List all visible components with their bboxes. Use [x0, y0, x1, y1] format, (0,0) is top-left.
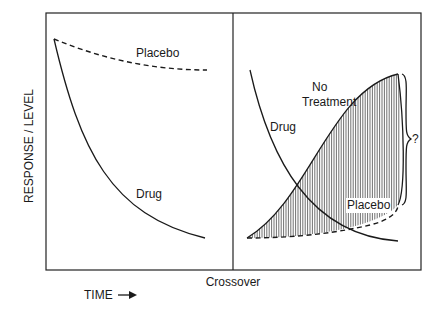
crossover-label: Crossover [206, 275, 261, 289]
no-treatment-label-line2: Treatment [302, 95, 357, 109]
left-drug-label: Drug [136, 187, 162, 201]
right-drug-label: Drug [270, 120, 296, 134]
time-axis-label: TIME [84, 288, 113, 302]
crossover-diagram: Placebo Drug ? No Treatment Drug Placebo… [0, 0, 441, 311]
left-placebo-label: Placebo [136, 46, 180, 60]
left-placebo-curve [54, 39, 207, 70]
no-treatment-label-line1: No [312, 80, 328, 94]
right-placebo-label: Placebo [347, 198, 391, 212]
right-arrow-icon [118, 291, 137, 299]
brace-question-label: ? [412, 132, 419, 146]
y-axis-label: RESPONSE / LEVEL [22, 89, 36, 203]
